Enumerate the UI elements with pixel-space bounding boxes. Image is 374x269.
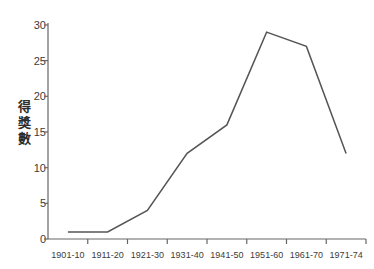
line-chart: 得 獎 數 051015202530 1901-101911-201921-30… [0,0,374,269]
plot-area [0,0,374,269]
data-series-line [68,32,346,232]
axis-lines [48,23,366,239]
x-axis-ticks [88,239,366,244]
